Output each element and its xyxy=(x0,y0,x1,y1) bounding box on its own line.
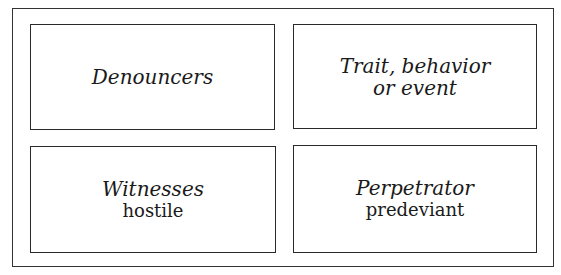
witnesses-box: Witnesses hostile xyxy=(30,146,276,253)
perpetrator-box: Perpetrator predeviant xyxy=(293,145,537,253)
witnesses-label: Witnesses xyxy=(102,178,204,200)
or-event-label: or event xyxy=(373,77,457,99)
hostile-label: hostile xyxy=(122,200,183,222)
denouncers-label: Denouncers xyxy=(92,66,213,88)
denouncers-box: Denouncers xyxy=(30,24,275,130)
trait-behavior-label: Trait, behavior xyxy=(340,55,491,77)
perpetrator-label: Perpetrator xyxy=(356,177,474,199)
trait-behavior-event-box: Trait, behavior or event xyxy=(293,24,537,129)
predeviant-label: predeviant xyxy=(366,199,464,221)
